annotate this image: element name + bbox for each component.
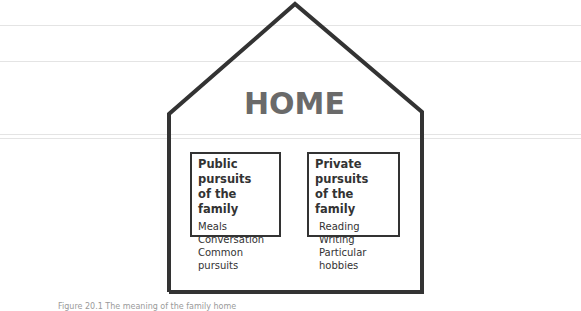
public-pursuits-box: Public pursuits of the family Meals Conv…	[190, 152, 281, 237]
list-item: Meals	[198, 220, 273, 233]
list-item: Writing	[319, 233, 392, 246]
pursuits-list: Reading Writing Particular hobbies	[315, 220, 392, 272]
figure-caption: Figure 20.1 The meaning of the family ho…	[58, 302, 236, 311]
box-heading: Public pursuits	[198, 157, 273, 187]
list-item: Common pursuits	[198, 246, 273, 272]
pursuits-list: Meals Conversation Common pursuits	[198, 220, 273, 272]
box-heading: of the family	[198, 187, 273, 217]
list-item: Particular hobbies	[319, 246, 392, 272]
box-heading: Private pursuits	[315, 157, 392, 187]
home-title: HOME	[244, 86, 344, 121]
private-pursuits-box: Private pursuits of the family Reading W…	[307, 152, 400, 237]
box-heading: of the family	[315, 187, 392, 217]
list-item: Conversation	[198, 233, 273, 246]
list-item: Reading	[319, 220, 392, 233]
